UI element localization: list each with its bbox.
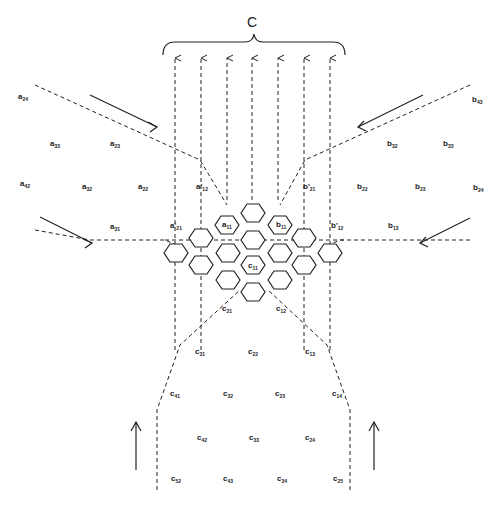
label-c52: c52 <box>171 475 181 484</box>
processing-element-array <box>164 204 342 301</box>
processing-element-hex <box>216 244 240 262</box>
label-c14: c14 <box>332 390 342 399</box>
label-a12p: a'12 <box>196 183 208 192</box>
label-b24: b24 <box>473 184 483 193</box>
processing-element-hex <box>241 283 265 301</box>
processing-element-hex <box>292 229 316 247</box>
label-c11: c11 <box>248 262 258 271</box>
label-a22: a22 <box>138 183 148 192</box>
label-b32: b32 <box>387 140 397 149</box>
label-c22: c22 <box>248 348 258 357</box>
label-c32: c32 <box>223 390 233 399</box>
label-c31: c31 <box>195 348 205 357</box>
processing-element-hex <box>241 204 265 222</box>
label-a23: a23 <box>110 140 120 149</box>
processing-element-hex <box>292 256 316 274</box>
label-a21p: a'21 <box>170 222 182 231</box>
processing-element-hex <box>216 271 240 289</box>
label-a31: a31 <box>110 223 120 232</box>
label-c43: c43 <box>223 475 233 484</box>
label-c41: c41 <box>170 390 180 399</box>
label-c13: c13 <box>305 348 315 357</box>
processing-element-hex <box>189 229 213 247</box>
processing-element-hex <box>164 244 188 262</box>
label-b23: b23 <box>415 183 425 192</box>
label-a11: a11 <box>222 221 232 230</box>
label-c42: c42 <box>197 434 207 443</box>
label-c33: c33 <box>249 434 259 443</box>
label-a42: a42 <box>20 180 30 189</box>
label-c25: c25 <box>333 475 343 484</box>
label-b22: b22 <box>357 183 367 192</box>
label-a32: a32 <box>82 183 92 192</box>
label-a24: a24 <box>18 93 28 102</box>
label-c34: c34 <box>277 475 287 484</box>
label-b13: b13 <box>388 222 398 231</box>
label-b11: b11 <box>276 221 286 230</box>
label-b21p: b'21 <box>303 183 315 192</box>
processing-element-hex <box>268 271 292 289</box>
processing-element-hex <box>318 244 342 262</box>
processing-element-hex <box>268 244 292 262</box>
output-matrix-title: C <box>247 14 257 30</box>
brace-c <box>163 34 345 55</box>
processing-element-hex <box>241 231 265 249</box>
label-b43: b43 <box>472 96 482 105</box>
systolic-array-diagram: C a24a33a23a42a32a22a31a'12a'21a11b11b'2… <box>0 0 504 514</box>
label-c23: c23 <box>275 390 285 399</box>
processing-element-hex <box>189 256 213 274</box>
label-a33: a33 <box>50 140 60 149</box>
label-b33: b33 <box>443 140 453 149</box>
label-c24: c24 <box>305 434 315 443</box>
label-c21: c21 <box>222 305 232 314</box>
label-b12p: b'12 <box>331 222 343 231</box>
label-c12: c12 <box>276 305 286 314</box>
